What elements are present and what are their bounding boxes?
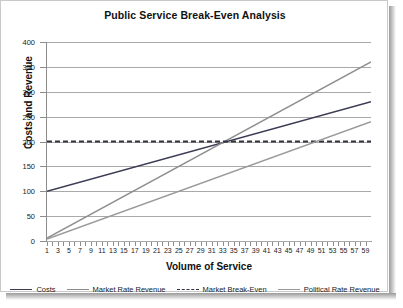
y-axis-tick-label: 400 [1,38,35,47]
y-axis-tick [40,191,46,192]
y-axis-tick-label: 250 [1,113,35,122]
x-axis-tick [58,242,59,246]
x-axis-tick [217,242,218,246]
frame-shadow-right [389,6,396,298]
x-axis-tick [124,242,125,246]
x-axis-tick [140,242,141,246]
y-axis-tick-label: 300 [1,88,35,97]
x-axis-tick [102,242,103,246]
x-axis-tick [91,242,92,246]
x-axis-tick [333,242,334,246]
x-axis-tick [327,242,328,246]
x-axis-tick [316,242,317,246]
y-axis-tick [40,166,46,167]
x-axis-tick [63,242,64,246]
chart-frame: Public Service Break-Even Analysis Costs… [0,0,388,292]
x-axis-tick [366,242,367,246]
x-axis-tick [168,242,169,246]
x-axis-tick [300,242,301,246]
legend-swatch-icon [10,289,32,290]
x-axis-tick [162,242,163,246]
x-axis-tick [289,242,290,246]
x-axis-tick [52,242,53,246]
x-axis-tick [80,242,81,246]
y-axis-tick [40,216,46,217]
x-axis-tick-label: 59 [359,247,373,254]
x-axis-tick [272,242,273,246]
x-axis-tick [195,242,196,246]
series-lines [47,42,371,241]
legend-swatch-icon [177,289,199,290]
x-axis-tick [129,242,130,246]
x-axis-tick [146,242,147,246]
x-axis-tick [349,242,350,246]
x-axis-tick [85,242,86,246]
x-axis-tick [118,242,119,246]
x-axis-tick [190,242,191,246]
x-axis-tick [184,242,185,246]
x-axis-tick [261,242,262,246]
y-axis-tick-label: 100 [1,187,35,196]
series-line [47,122,371,239]
y-axis-tick [40,117,46,118]
x-axis-tick [322,242,323,246]
x-axis-tick [223,242,224,246]
x-axis-tick [239,242,240,246]
x-axis-tick [135,242,136,246]
y-axis-tick [40,92,46,93]
x-axis-tick [206,242,207,246]
x-axis-tick [305,242,306,246]
x-axis-tick [256,242,257,246]
x-axis-tick [107,242,108,246]
legend-swatch-icon [67,289,89,290]
x-axis-tick [344,242,345,246]
x-axis-tick [311,242,312,246]
y-axis-tick-label: 0 [1,237,35,246]
frame-shadow-bottom [6,293,396,300]
x-axis-tick [228,242,229,246]
y-axis-tick [40,241,46,242]
x-axis-tick [360,242,361,246]
x-axis-title: Volume of Service [47,261,371,272]
x-axis-tick [245,242,246,246]
x-axis-tick [355,242,356,246]
y-axis-tick-label: 150 [1,162,35,171]
y-axis-tick-label: 350 [1,63,35,72]
series-line [47,62,371,238]
y-axis-tick-label: 50 [1,212,35,221]
y-axis-tick [40,42,46,43]
legend-swatch-icon [278,289,300,290]
x-axis-tick [47,242,48,246]
series-line [47,102,371,192]
x-axis-tick [173,242,174,246]
y-axis-tick [40,67,46,68]
x-axis-tick [96,242,97,246]
y-axis-tick-label: 200 [1,138,35,147]
x-axis-tick [338,242,339,246]
x-axis-tick [113,242,114,246]
x-axis-tick [179,242,180,246]
x-axis-tick [151,242,152,246]
y-axis-tick [40,142,46,143]
x-axis-tick [201,242,202,246]
x-axis-tick [69,242,70,246]
x-axis-tick [278,242,279,246]
x-axis-tick [294,242,295,246]
x-axis-tick [74,242,75,246]
x-axis-tick [250,242,251,246]
x-axis-tick [157,242,158,246]
x-axis-tick [212,242,213,246]
y-axis-title: Costs and Revenue [23,28,34,178]
x-axis-tick [267,242,268,246]
chart-title: Public Service Break-Even Analysis [1,9,389,21]
x-axis-tick [283,242,284,246]
x-axis-tick [234,242,235,246]
